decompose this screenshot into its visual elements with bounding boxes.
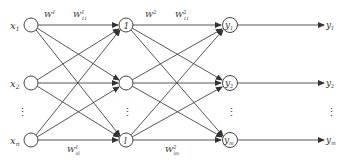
hidden-label-1: 1	[124, 21, 130, 31]
final-output-ym: ym	[325, 135, 336, 146]
input-label-x1: x1	[10, 20, 19, 32]
weight-label-w1: W1	[44, 9, 55, 19]
input-node-xn	[24, 133, 38, 147]
final-output-y1: y1	[325, 20, 334, 31]
output-ellipsis: ⋮	[226, 106, 237, 119]
weight-label-w2-lm: W2lm	[165, 144, 179, 156]
hidden-ellipsis: ⋮	[122, 106, 133, 119]
input-node-x1	[24, 18, 38, 32]
weight-label-w1-nl: W1nl	[67, 144, 80, 156]
hidden-label-l: l	[124, 136, 127, 146]
input-node-x2	[24, 76, 38, 90]
hidden-layer: 1 l ⋮	[119, 18, 133, 147]
final-output-y2: y2	[325, 78, 334, 89]
neural-network-diagram: x1 x2 xn ⋮ 1 l ⋮ y1 y2 ym ⋮ y1 y2 ym ⋮ W…	[0, 0, 347, 164]
output-arrows	[238, 25, 324, 140]
input-label-xn: xn	[10, 135, 20, 147]
weight-label-w2: W2	[145, 9, 156, 19]
weight-label-w1-11: W111	[73, 9, 87, 21]
edges-input-hidden	[36, 25, 120, 140]
weight-label-w2-11: W211	[175, 9, 189, 21]
output-layer: y1 y2 ym ⋮	[223, 18, 238, 148]
edges-hidden-output	[131, 25, 223, 140]
weight-labels: W1 W111 W2 W211 W1nl W2lm	[44, 9, 189, 156]
input-layer: x1 x2 xn ⋮	[10, 18, 38, 147]
final-outputs: y1 y2 ym ⋮	[325, 20, 337, 146]
hidden-node-2	[119, 76, 133, 90]
final-output-ellipsis: ⋮	[326, 106, 337, 119]
input-ellipsis: ⋮	[17, 106, 28, 119]
input-label-x2: x2	[10, 78, 20, 90]
